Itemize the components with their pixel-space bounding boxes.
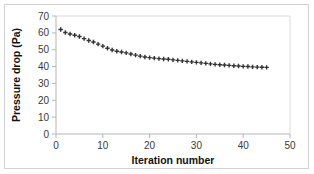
data-point-marker	[119, 50, 123, 54]
data-point-marker	[194, 60, 198, 64]
data-point-marker	[133, 53, 137, 57]
data-point-marker	[63, 30, 67, 34]
data-point-marker	[250, 65, 254, 69]
chart-figure: 0 10 20 30 40 50 60 70 0 10 20 30 40 50 …	[0, 0, 314, 174]
data-point-marker	[232, 64, 236, 68]
y-tick-label: 10	[38, 112, 50, 123]
data-point-marker	[185, 59, 189, 63]
data-point-marker	[124, 51, 128, 55]
y-tick-label: 70	[38, 11, 50, 22]
data-point-marker	[180, 59, 184, 63]
x-tick-label: 40	[238, 140, 250, 151]
data-point-marker	[208, 62, 212, 66]
y-axis-ticks	[52, 16, 56, 134]
data-point-marker	[166, 57, 170, 61]
data-point-marker	[58, 27, 62, 31]
data-point-marker	[236, 64, 240, 68]
data-point-marker	[264, 65, 268, 69]
data-point-marker	[152, 56, 156, 60]
data-point-marker	[87, 38, 91, 42]
x-tick-labels: 0 10 20 30 40 50	[53, 140, 296, 151]
data-point-marker	[204, 61, 208, 65]
data-point-marker	[143, 55, 147, 59]
data-point-marker	[138, 54, 142, 58]
x-tick-label: 0	[53, 140, 59, 151]
data-point-marker	[255, 65, 259, 69]
data-point-marker	[246, 64, 250, 68]
x-axis-title: Iteration number	[132, 154, 215, 166]
data-point-marker	[101, 44, 105, 48]
x-tick-label: 20	[144, 140, 156, 151]
data-point-marker	[227, 63, 231, 67]
data-point-marker	[73, 33, 77, 37]
data-point-marker	[190, 60, 194, 64]
data-point-marker	[147, 55, 151, 59]
data-point-marker	[91, 40, 95, 44]
data-point-marker	[222, 63, 226, 67]
data-point-marker	[82, 36, 86, 40]
data-point-marker	[218, 63, 222, 67]
data-point-marker	[157, 56, 161, 60]
plot-area-frame	[56, 16, 290, 134]
y-tick-label: 40	[38, 61, 50, 72]
data-point-marker	[175, 58, 179, 62]
x-axis-ticks	[56, 134, 290, 138]
data-point-marker	[77, 34, 81, 38]
pressure-drop-chart: 0 10 20 30 40 50 60 70 0 10 20 30 40 50 …	[0, 0, 314, 174]
data-point-marker	[68, 32, 72, 36]
y-tick-label: 50	[38, 44, 50, 55]
data-point-marker	[171, 58, 175, 62]
data-point-marker	[161, 57, 165, 61]
data-point-marker	[241, 64, 245, 68]
y-tick-label: 20	[38, 95, 50, 106]
y-tick-label: 0	[43, 129, 49, 140]
data-series-markers	[58, 27, 268, 69]
x-tick-label: 50	[284, 140, 296, 151]
data-point-marker	[115, 49, 119, 53]
data-point-marker	[199, 61, 203, 65]
data-point-marker	[96, 42, 100, 46]
y-tick-label: 30	[38, 78, 50, 89]
data-point-marker	[110, 48, 114, 52]
x-tick-label: 10	[97, 140, 109, 151]
data-point-marker	[260, 65, 264, 69]
data-point-marker	[105, 46, 109, 50]
x-tick-label: 30	[191, 140, 203, 151]
y-axis-title: Pressure drop (Pa)	[10, 28, 22, 122]
data-point-marker	[129, 52, 133, 56]
data-point-marker	[213, 62, 217, 66]
y-tick-label: 60	[38, 27, 50, 38]
y-tick-labels: 0 10 20 30 40 50 60 70	[38, 11, 50, 140]
